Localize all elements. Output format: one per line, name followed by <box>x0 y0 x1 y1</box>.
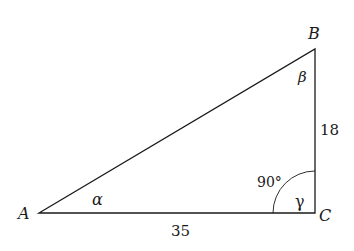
vertex-label-a: A <box>16 204 30 223</box>
triangle-diagram: A B C α β γ 90° 35 18 <box>0 0 354 251</box>
side-label-bc: 18 <box>320 121 339 139</box>
vertex-label-c: C <box>319 206 331 225</box>
angle-label-alpha: α <box>92 190 103 209</box>
angle-label-gamma: γ <box>295 192 305 211</box>
angle-label-beta: β <box>297 68 307 86</box>
angle-value-90: 90° <box>257 174 282 190</box>
vertex-label-b: B <box>307 24 320 43</box>
side-label-ac: 35 <box>171 222 190 240</box>
